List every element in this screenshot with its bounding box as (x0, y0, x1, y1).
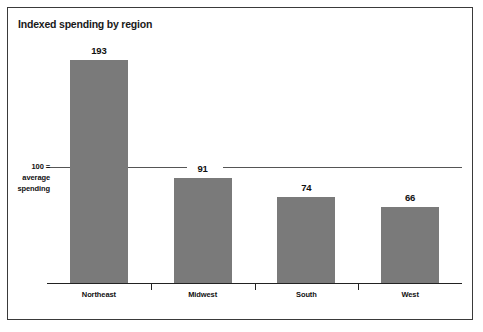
chart-title: Indexed spending by region (18, 18, 152, 30)
axis-tick (255, 284, 256, 290)
axis-tick (151, 284, 152, 290)
axis-tick (358, 284, 359, 290)
category-label-northeast: Northeast (59, 290, 139, 299)
reference-label-line2: average (0, 172, 50, 183)
plot-area: 193917466 (47, 40, 462, 283)
bar-value-label: 91 (173, 163, 233, 174)
reference-label-line1: 100 = (0, 161, 50, 172)
chart-figure: Indexed spending by region 193917466 100… (0, 0, 483, 332)
reference-label-line3: spending (0, 183, 50, 194)
bar-value-label: 74 (276, 182, 336, 193)
reference-line-right-segment (223, 167, 462, 168)
bar-midwest (174, 178, 232, 283)
bar-south (277, 197, 335, 283)
bar-northeast (70, 60, 128, 283)
category-label-midwest: Midwest (163, 290, 243, 299)
bar-value-label: 66 (380, 192, 440, 203)
bar-value-label: 193 (69, 45, 129, 56)
bar-west (381, 207, 439, 283)
category-label-west: West (370, 290, 450, 299)
category-label-south: South (266, 290, 346, 299)
reference-annotation: 100 = average spending (0, 161, 50, 201)
